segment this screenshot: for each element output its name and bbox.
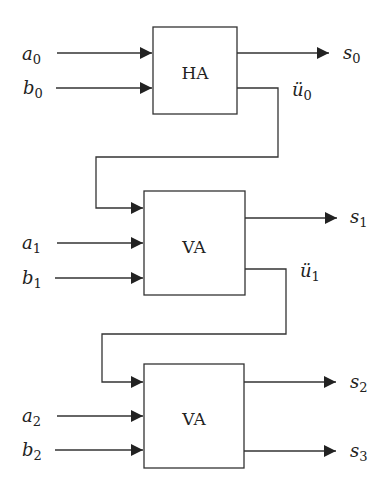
half-adder-block: HA <box>153 27 237 114</box>
carry-label-u0: ü0 <box>292 79 312 103</box>
output-label-s1: s1 <box>350 206 368 230</box>
input-label-b0: b0 <box>23 77 43 101</box>
input-label-a1: a1 <box>22 232 41 256</box>
full-adder-block-1: VA <box>144 191 245 295</box>
block-label-ha: HA <box>181 63 209 83</box>
carry-label-u1: ü1 <box>300 260 320 284</box>
full-adder-block-2: VA <box>144 364 244 468</box>
block-label-va1: VA <box>181 237 206 257</box>
input-label-a0: a0 <box>22 43 41 67</box>
adder-diagram: HA a0 b0 s0 ü0 VA a1 b1 s1 ü1 VA a2 b2 s… <box>0 0 392 497</box>
output-label-s0: s0 <box>343 42 361 66</box>
output-label-s2: s2 <box>350 371 368 395</box>
input-label-a2: a2 <box>22 405 41 429</box>
output-label-s3: s3 <box>350 440 368 464</box>
input-label-b2: b2 <box>22 439 42 463</box>
input-label-b1: b1 <box>22 267 42 291</box>
block-label-va2: VA <box>181 409 206 429</box>
